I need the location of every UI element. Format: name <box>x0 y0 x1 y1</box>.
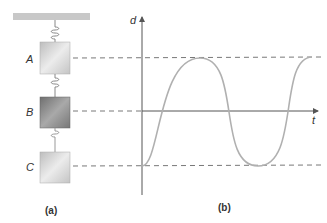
block-c <box>40 152 70 183</box>
caption-b: (b) <box>218 202 231 213</box>
spring-top-icon <box>51 20 59 42</box>
spring-bottom-icon <box>51 128 59 152</box>
dashed-line-c <box>73 165 322 166</box>
spring-middle-icon <box>51 74 59 97</box>
x-axis-label: t <box>312 114 316 126</box>
y-axis-label: d <box>130 14 137 26</box>
block-a <box>40 42 70 74</box>
block-a-label: A <box>25 53 33 65</box>
block-b-label: B <box>26 106 33 118</box>
diagram-canvas: A B C (a) d t (b) <box>0 0 327 223</box>
block-c-label: C <box>26 161 34 173</box>
block-b <box>40 97 70 128</box>
ceiling-bar <box>13 13 90 20</box>
panel-a: A B C (a) <box>13 13 90 216</box>
caption-a: (a) <box>45 205 57 216</box>
panel-b: d t (b) <box>130 14 318 213</box>
